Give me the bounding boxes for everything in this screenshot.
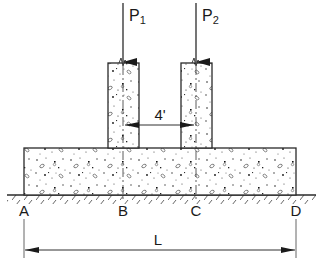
- load-subscript: 2: [213, 14, 219, 26]
- point-label-d: D: [291, 203, 302, 218]
- length-label: L: [154, 232, 162, 247]
- column-1: [108, 63, 139, 148]
- footing: [24, 148, 296, 195]
- load-label-p2: P2: [202, 8, 219, 26]
- footing-diagram: [0, 0, 318, 265]
- load-subscript: 1: [140, 14, 146, 26]
- load-symbol: P: [202, 7, 213, 24]
- column-2: [181, 63, 212, 148]
- point-label-b: B: [118, 203, 128, 218]
- load-label-p1: P1: [129, 8, 146, 26]
- point-label-a: A: [19, 203, 29, 218]
- ground-hatch: [7, 195, 316, 204]
- spacing-label: 4': [154, 107, 165, 122]
- load-symbol: P: [129, 7, 140, 24]
- point-label-c: C: [191, 203, 202, 218]
